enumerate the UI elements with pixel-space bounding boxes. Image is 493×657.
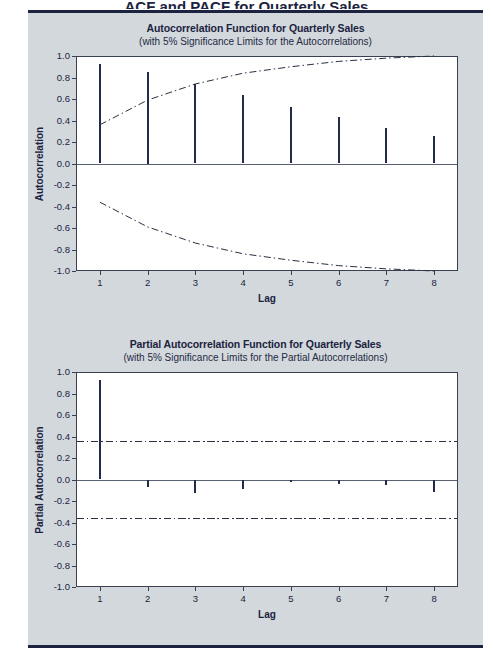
pacf-ytick-mark (72, 372, 76, 373)
acf-bar (99, 64, 101, 164)
pacf-ytick-label: 0.6 (40, 410, 70, 419)
acf-ytick-label: -0.6 (40, 223, 70, 232)
acf-ytick-mark (72, 99, 76, 100)
acf-xtick-label: 6 (329, 278, 349, 287)
acf-bar (290, 107, 292, 164)
pacf-ytick-mark (72, 437, 76, 438)
acf-bar (338, 117, 340, 163)
acf-y-axis-label: Autocorrelation (34, 126, 45, 200)
acf-ytick-label: -0.4 (40, 202, 70, 211)
pacf-ytick-mark (72, 566, 76, 567)
pacf-chart: Partial Autocorrelation Function for Qua… (28, 338, 483, 634)
acf-zero-line (77, 164, 457, 165)
acf-ytick-label: -0.8 (40, 245, 70, 254)
acf-xtick-label: 7 (376, 278, 396, 287)
acf-xtick-label: 2 (138, 278, 158, 287)
pacf-xtick-mark (195, 587, 196, 591)
pacf-bar (433, 480, 435, 493)
acf-chart: Autocorrelation Function for Quarterly S… (28, 22, 483, 318)
pacf-ytick-mark (72, 394, 76, 395)
acf-bar (147, 72, 149, 163)
pacf-ytick-mark (72, 587, 76, 588)
acf-xtick-mark (291, 271, 292, 275)
pacf-ytick-mark (72, 544, 76, 545)
acf-xtick-label: 8 (424, 278, 444, 287)
pacf-ytick-label: -0.6 (40, 539, 70, 548)
pacf-xtick-label: 6 (329, 594, 349, 603)
pacf-xtick-label: 5 (281, 594, 301, 603)
pacf-ytick-label: 0.8 (40, 389, 70, 398)
acf-ytick-mark (72, 207, 76, 208)
pacf-ytick-mark (72, 415, 76, 416)
acf-bar (385, 128, 387, 163)
pacf-xtick-mark (339, 587, 340, 591)
pacf-xtick-label: 7 (376, 594, 396, 603)
pacf-bar (242, 480, 244, 490)
acf-subtitle: (with 5% Significance Limits for the Aut… (28, 35, 483, 48)
acf-ytick-mark (72, 142, 76, 143)
page: ACF and PACF for Quarterly Sales Autocor… (0, 0, 493, 657)
pacf-subtitle: (with 5% Significance Limits for the Par… (28, 351, 483, 364)
acf-plot-area: 1.00.80.60.40.20.0-0.2-0.4-0.6-0.8-1.012… (28, 48, 483, 318)
acf-bar (194, 84, 196, 164)
pacf-ytick-mark (72, 458, 76, 459)
pacf-xtick-mark (100, 587, 101, 591)
acf-ytick-label: 0.8 (40, 73, 70, 82)
pacf-ytick-label: -1.0 (40, 582, 70, 591)
pacf-xtick-label: 2 (138, 594, 158, 603)
acf-ytick-label: 0.4 (40, 116, 70, 125)
pacf-bar (338, 480, 340, 484)
pacf-zero-line (77, 480, 457, 481)
acf-ytick-mark (72, 78, 76, 79)
pacf-bar (99, 380, 101, 480)
acf-ytick-label: 0.6 (40, 94, 70, 103)
pacf-xtick-label: 1 (90, 594, 110, 603)
acf-ytick-mark (72, 250, 76, 251)
pacf-xtick-mark (434, 587, 435, 591)
pacf-bar (194, 480, 196, 494)
pacf-xtick-label: 8 (424, 594, 444, 603)
acf-title: Autocorrelation Function for Quarterly S… (28, 22, 483, 35)
pacf-title: Partial Autocorrelation Function for Qua… (28, 338, 483, 351)
acf-ytick-label: 1.0 (40, 51, 70, 60)
pacf-bar (290, 480, 292, 482)
bottom-rule (28, 645, 483, 648)
acf-bar (433, 136, 435, 164)
pacf-xtick-mark (291, 587, 292, 591)
acf-ytick-mark (72, 164, 76, 165)
pacf-ytick-label: 1.0 (40, 367, 70, 376)
pacf-xtick-mark (386, 587, 387, 591)
pacf-x-axis-label: Lag (76, 609, 458, 620)
pacf-significance-lower (77, 518, 457, 519)
pacf-bar (147, 480, 149, 488)
pacf-ytick-mark (72, 501, 76, 502)
acf-ytick-mark (72, 271, 76, 272)
acf-ytick-mark (72, 185, 76, 186)
acf-xtick-mark (339, 271, 340, 275)
pacf-xtick-label: 4 (233, 594, 253, 603)
acf-x-axis-label: Lag (76, 293, 458, 304)
acf-ytick-mark (72, 228, 76, 229)
acf-xtick-label: 5 (281, 278, 301, 287)
pacf-xtick-mark (148, 587, 149, 591)
pacf-significance-upper (77, 441, 457, 442)
pacf-ytick-mark (72, 480, 76, 481)
acf-ytick-mark (72, 56, 76, 57)
pacf-plot-area: 1.00.80.60.40.20.0-0.2-0.4-0.6-0.8-1.012… (28, 364, 483, 634)
pacf-ytick-label: -0.8 (40, 561, 70, 570)
acf-bar (242, 95, 244, 164)
pacf-xtick-label: 3 (185, 594, 205, 603)
pacf-bar (385, 480, 387, 485)
cut-off-page-header: ACF and PACF for Quarterly Sales (0, 0, 493, 9)
acf-ytick-label: -1.0 (40, 266, 70, 275)
pacf-xtick-mark (243, 587, 244, 591)
acf-xtick-label: 1 (90, 278, 110, 287)
pacf-ytick-mark (72, 523, 76, 524)
acf-xtick-mark (386, 271, 387, 275)
acf-xtick-label: 3 (185, 278, 205, 287)
acf-xtick-mark (243, 271, 244, 275)
acf-xtick-label: 4 (233, 278, 253, 287)
pacf-y-axis-label: Partial Autocorrelation (34, 426, 45, 533)
acf-xtick-mark (148, 271, 149, 275)
acf-ytick-mark (72, 121, 76, 122)
